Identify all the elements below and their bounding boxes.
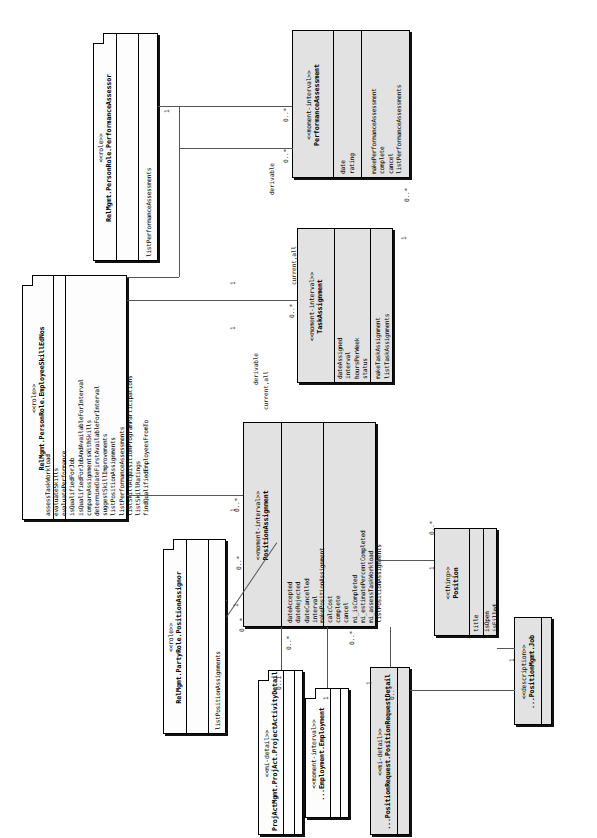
uml-class-position[interactable]: <<thing>>PositiontitleisOpenisFilled: [434, 528, 497, 636]
class-stereotype: <<moment-interval>>: [310, 694, 318, 814]
class-header-position: <<thing>>Position: [435, 529, 469, 637]
class-name: ...Employment.Employment: [318, 694, 327, 814]
class-method: assessTaskWorkload: [44, 281, 52, 516]
multiplicity-m-projact-optional: 0..1: [275, 676, 282, 690]
association-line: [127, 495, 243, 496]
uml-class-performance-assessment[interactable]: <<moment-interval>>PerformanceAssessment…: [292, 30, 410, 178]
association-line: [376, 560, 434, 561]
class-stereotype: <<role>>: [30, 281, 38, 516]
association-line: [514, 690, 515, 691]
class-methods-task-assignment: makeTaskAssignmentlistTaskAssignments: [370, 229, 394, 384]
multiplicity-m-posassign-many-e: 0..*: [348, 631, 355, 645]
class-method: isFilled: [491, 534, 499, 632]
class-name: TaskAssignment: [316, 234, 325, 379]
class-attribute: dateRejected: [294, 428, 302, 623]
class-attribute: title: [472, 534, 480, 632]
class-stereotype: <<moment-interval>>: [254, 428, 262, 623]
class-method: evaluateSkills: [52, 281, 60, 516]
class-method: calcCost: [326, 428, 334, 623]
class-attributes-task-assignment: dateAssignedintervalhoursPerWeekstatus: [334, 229, 370, 384]
multiplicity-m-posassign-many-a: 0..*: [233, 498, 240, 512]
class-stereotype: <<mi-detail>>: [376, 673, 384, 831]
class-stereotype: <<role>>: [97, 39, 105, 257]
uml-class-task-assignment[interactable]: <<moment-interval>>TaskAssignmentdateAss…: [297, 228, 393, 383]
class-name: Position: [452, 534, 461, 632]
class-header-performance-assessment: <<moment-interval>>PerformanceAssessment: [293, 31, 333, 179]
multiplicity-m-assessment-many-a: 0..*: [282, 108, 289, 122]
class-name: RelMgmt.PersonRole.PerformanceAssessor: [105, 39, 114, 257]
class-method: complete: [378, 36, 386, 174]
class-stereotype: <<moment-interval>>: [305, 36, 313, 174]
class-attribute: date: [339, 36, 347, 174]
class-methods-performance-assessor: listPerformanceAssessments: [138, 34, 159, 262]
class-method: complete: [334, 428, 342, 623]
class-method: mi_estimatePercentCompleted: [359, 428, 367, 623]
class-method: evaluatePerformance: [60, 281, 68, 516]
class-header-job: <<description>>...PositionMgmt.Job: [515, 618, 541, 726]
class-method: mi_isCompleted: [351, 428, 359, 623]
class-attributes-performance-assessment: daterating: [333, 31, 361, 179]
association-line: [127, 300, 297, 301]
class-method: makePositionAssignment: [318, 428, 326, 623]
class-name: ...PositionMgmt.Job: [528, 623, 537, 721]
class-method: isOpen: [483, 534, 491, 632]
multiplicity-m-posassignor-one: 1: [232, 603, 239, 607]
class-stereotype: <<description>>: [520, 623, 528, 721]
class-methods-performance-assessment: makePerformanceAssessmentcompletecancell…: [361, 31, 411, 179]
uml-class-body-position-assignment: <<moment-interval>>PositionAssignmentdat…: [244, 423, 377, 628]
uml-class-body-project-activity-detail: <<mi-detail>>ProjActMgmt.ProjAct.Project…: [259, 671, 304, 836]
class-method: cancel: [342, 428, 350, 623]
class-method: cancel: [387, 36, 395, 174]
class-attributes-job: [541, 618, 553, 726]
uml-class-body-employee-skill-edges: <<role>>RelMgmt.PersonRole.EmployeeSkill…: [23, 276, 128, 521]
uml-class-job[interactable]: <<description>>...PositionMgmt.Job: [514, 617, 552, 725]
association-line: [179, 106, 180, 148]
class-method: determineDateFirstAvailableForInterval: [93, 281, 101, 516]
multiplicity-m-employment-one: 1: [322, 696, 329, 700]
uml-class-employee-skill-edges[interactable]: <<role>>RelMgmt.PersonRole.EmployeeSkill…: [22, 275, 127, 520]
class-attributes-performance-assessor: [116, 34, 138, 262]
uml-class-employment[interactable]: <<moment-interval>>...Employment.Employm…: [305, 688, 349, 818]
class-method: listPerformanceAssessments: [145, 39, 153, 257]
uml-class-performance-assessor[interactable]: <<role>>RelMgmt.PersonRole.PerformanceAs…: [93, 33, 158, 261]
class-methods-project-activity-detail: [294, 671, 304, 836]
multiplicity-m-task-many: 0..*: [288, 304, 295, 318]
class-name: RelMgmt.PartyRole.PositionAssignor: [175, 545, 184, 730]
class-method: listPerformanceAssessments: [395, 36, 403, 174]
class-name: ProjActMgmt.ProjAct.ProjectActivityDetai…: [271, 676, 280, 831]
association-line: [327, 627, 328, 688]
class-header-position-assignment: <<moment-interval>>PositionAssignment: [244, 423, 281, 628]
class-attributes-position: title: [469, 529, 483, 637]
class-attribute: dateCancelled: [303, 428, 311, 623]
class-stereotype: <<role>>: [167, 545, 175, 730]
association-line: [281, 627, 282, 670]
class-stereotype: <<moment-interval>>: [308, 234, 316, 379]
uml-class-body-position-assignor: <<role>>RelMgmt.PartyRole.PositionAssign…: [164, 540, 227, 735]
uml-diagram-canvas: <<role>>RelMgmt.PersonRole.PerformanceAs…: [0, 0, 597, 838]
class-method: compareAssignmentsWithSkills: [85, 281, 93, 516]
multiplicity-m-position-one: 1: [428, 566, 435, 570]
uml-class-body-position: <<thing>>PositiontitleisOpenisFilled: [435, 529, 498, 637]
class-method: listPositionAssignments: [109, 281, 117, 516]
uml-class-project-activity-detail[interactable]: <<mi-detail>>ProjActMgmt.ProjAct.Project…: [258, 670, 303, 835]
uml-class-body-performance-assessment: <<moment-interval>>PerformanceAssessment…: [293, 31, 411, 179]
multiplicity-m-posassign-many-c: 0..*: [238, 618, 245, 632]
multiplicity-m-assessment-many-b: 0..*: [282, 149, 289, 163]
class-stereotype: <<thing>>: [444, 534, 452, 632]
uml-class-position-assignment[interactable]: <<moment-interval>>PositionAssignmentdat…: [243, 422, 376, 627]
class-attributes-position-assignment: dateAccepteddateRejecteddateCancelledint…: [281, 423, 323, 628]
uml-class-body-employment: <<moment-interval>>...Employment.Employm…: [306, 689, 350, 819]
multiplicity-m-task-one: 1: [400, 236, 407, 240]
class-method: listSkillAcquisitionProgramParticipation…: [126, 281, 134, 516]
class-attribute: dateAssigned: [336, 234, 344, 379]
multiplicity-m-posreqdetail-many: 0..*: [388, 686, 395, 700]
class-method: mi_assessTaskWorkload: [367, 428, 375, 623]
uml-class-position-assignor[interactable]: <<role>>RelMgmt.PartyRole.PositionAssign…: [163, 539, 226, 734]
class-attributes-project-activity-detail: [283, 671, 294, 836]
class-attribute: hoursPerWeek: [353, 234, 361, 379]
multiplicity-m-posassign-many-b: 0..*: [235, 556, 242, 570]
class-method: listTaskAssignments: [383, 234, 391, 379]
association-line: [514, 648, 515, 649]
association-label-derivable-2: derivable: [252, 353, 259, 385]
multiplicity-m-posreqdetail-one: 1: [365, 681, 372, 685]
